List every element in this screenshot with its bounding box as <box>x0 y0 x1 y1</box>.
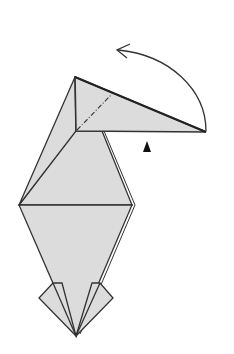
origami-diagram <box>0 0 234 354</box>
lower-body <box>19 205 132 336</box>
diagram-canvas <box>0 0 234 354</box>
pivot-marker-icon <box>143 141 151 152</box>
